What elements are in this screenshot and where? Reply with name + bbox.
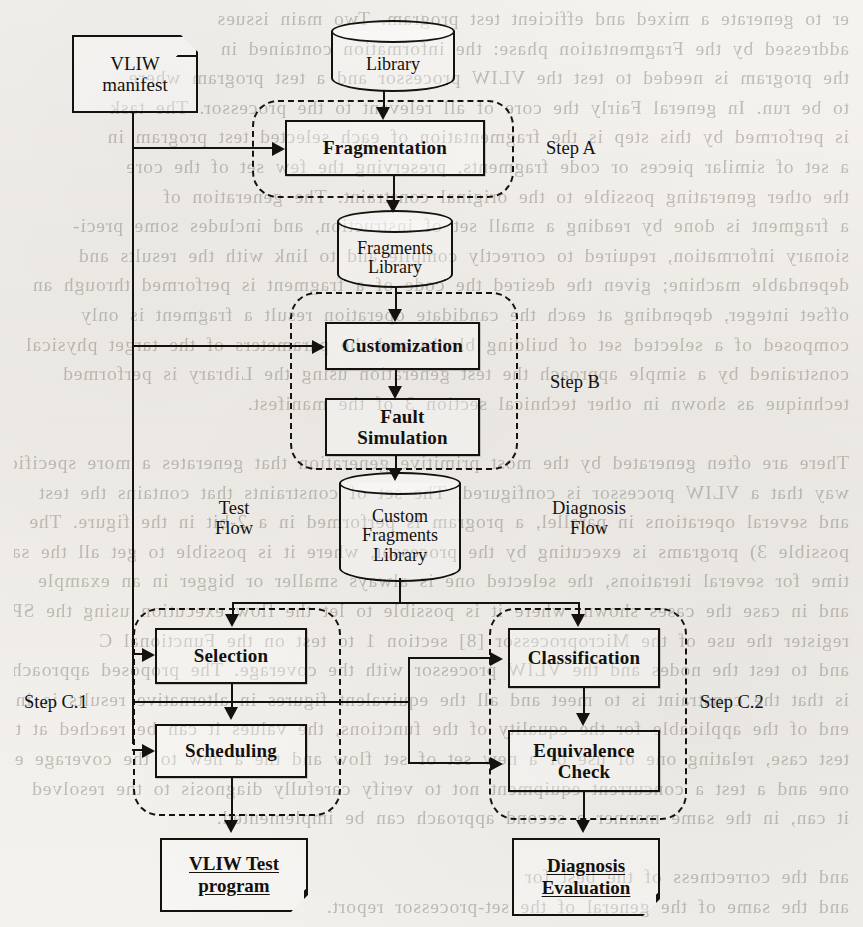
arrowhead-to-customization xyxy=(312,340,325,354)
arrowhead-to-fragmentation xyxy=(272,142,285,156)
vliw-manifest-label-line2: manifest xyxy=(102,74,167,95)
vliw-manifest-node: VLIW manifest xyxy=(72,35,198,113)
classification-label: Classification xyxy=(528,647,641,668)
connector-crosslink-to-equivalence-check xyxy=(408,762,490,764)
connector-manifest-trunk xyxy=(132,113,134,744)
arrowhead-equivalence-check-to-output xyxy=(576,820,590,833)
bleed-through-line: and the correctness of the best for xyxy=(14,866,849,888)
arrowhead-bus-to-classification xyxy=(571,614,585,627)
custom-fragments-library-label: Custom Fragments Library xyxy=(339,492,461,580)
connector-manifest-to-fragmentation xyxy=(132,147,272,149)
step-c1-label: Step C.1 xyxy=(24,692,124,712)
arrowhead-fragments-library-to-customization xyxy=(388,309,402,322)
step-a-label: Step A xyxy=(528,138,614,158)
fault-simulation-label-line2: Simulation xyxy=(357,427,448,448)
arrowhead-to-classification xyxy=(490,652,503,666)
fragmentation-box: Fragmentation xyxy=(285,120,485,176)
vliw-test-program-label-line1: VLIW Test xyxy=(189,853,279,875)
connector-scheduling-to-output xyxy=(231,778,233,823)
fragments-library-label-line2: Library xyxy=(368,258,422,277)
bleed-through-line: it can, in the same manner a second appr… xyxy=(14,807,849,829)
connector-manifest-to-scheduling xyxy=(132,749,142,751)
arrowhead-customization-to-fault-simulation xyxy=(388,386,402,399)
selection-label: Selection xyxy=(194,645,269,666)
fragments-library-label: Fragments Library xyxy=(337,230,453,286)
folded-corner-icon xyxy=(285,889,306,910)
connector-manifest-to-customization xyxy=(132,345,312,347)
equivalence-check-box: Equivalence Check xyxy=(508,730,660,792)
connector-custom-library-down xyxy=(399,578,401,603)
connector-classification-to-equivalence-check xyxy=(583,688,585,716)
diagnosis-evaluation-output: Diagnosis Evaluation xyxy=(512,838,660,916)
custom-fragments-library-datastore: Custom Fragments Library xyxy=(339,472,461,582)
custom-fragments-library-label-line1: Custom xyxy=(372,507,428,526)
arrowhead-scheduling-to-output xyxy=(224,820,238,833)
custom-fragments-library-label-line3: Library xyxy=(373,546,427,565)
connector-testflow-to-diagnosisflow xyxy=(132,701,410,703)
fault-simulation-box: Fault Simulation xyxy=(325,398,480,456)
diagnosis-evaluation-label-line2: Evaluation xyxy=(542,877,631,899)
arrowhead-to-selection xyxy=(142,648,155,662)
customization-box: Customization xyxy=(325,322,480,370)
arrowhead-to-equivalence-check xyxy=(490,757,503,771)
equivalence-check-label-line2: Check xyxy=(558,761,611,782)
diagnosis-flow-label: Diagnosis Flow xyxy=(524,498,654,539)
scheduling-label: Scheduling xyxy=(185,740,277,761)
library-label-line1: Library xyxy=(366,55,420,74)
test-flow-label: Test Flow xyxy=(188,498,280,539)
fragments-library-label-line1: Fragments xyxy=(357,239,433,258)
arrowhead-classification-to-equivalence-check xyxy=(576,713,590,726)
arrowhead-bus-to-selection xyxy=(225,614,239,627)
step-c2-label: Step C.2 xyxy=(700,692,800,712)
arrowhead-selection-to-scheduling xyxy=(224,707,238,720)
connector-crosslink-riser xyxy=(408,658,410,764)
library-label: Library xyxy=(331,40,455,90)
vliw-test-program-label-line2: program xyxy=(198,875,269,897)
vliw-manifest-label-line1: VLIW xyxy=(110,53,160,74)
connector-custom-library-bus xyxy=(232,602,580,604)
customization-label: Customization xyxy=(342,335,463,356)
folded-corner-icon xyxy=(176,37,196,57)
step-b-label: Step B xyxy=(532,372,618,392)
selection-box: Selection xyxy=(155,628,307,684)
scheduling-box: Scheduling xyxy=(155,724,307,778)
bleed-through-line: and the same of the general of the set-p… xyxy=(14,896,849,918)
scanned-page: er to generate a mixed and efficient tes… xyxy=(0,0,863,927)
arrowhead-to-scheduling xyxy=(142,744,155,758)
fragmentation-label: Fragmentation xyxy=(323,137,447,158)
arrowhead-library-to-fragmentation xyxy=(376,107,390,120)
vliw-test-program-output: VLIW Test program xyxy=(160,838,308,912)
fragments-library-datastore: Fragments Library xyxy=(337,210,453,288)
connector-manifest-to-selection xyxy=(132,653,142,655)
equivalence-check-label-line1: Equivalence xyxy=(533,740,634,761)
arrowhead-fragmentation-to-fragments-library xyxy=(386,200,400,213)
connector-crosslink-to-classification xyxy=(408,657,490,659)
fault-simulation-label-line1: Fault xyxy=(380,406,424,427)
diagnosis-evaluation-label-line1: Diagnosis xyxy=(547,855,625,877)
arrowhead-fault-simulation-to-custom-library xyxy=(388,468,402,481)
classification-box: Classification xyxy=(508,628,660,688)
library-datastore: Library xyxy=(331,20,455,92)
folded-corner-icon xyxy=(637,893,658,914)
custom-fragments-library-label-line2: Fragments xyxy=(362,526,438,545)
